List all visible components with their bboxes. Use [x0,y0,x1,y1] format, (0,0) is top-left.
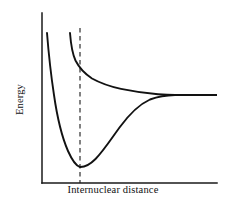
potential-energy-curve-figure: Energy Internuclear distance [0,0,226,200]
x-axis-title-text: Internuclear distance [68,184,159,195]
y-axis-title: Energy [0,0,40,200]
bonding-potential-curve [47,33,175,167]
y-axis-title-text: Energy [15,83,26,116]
x-axis-title: Internuclear distance [0,184,226,195]
antibonding-potential-curve [70,33,175,95]
